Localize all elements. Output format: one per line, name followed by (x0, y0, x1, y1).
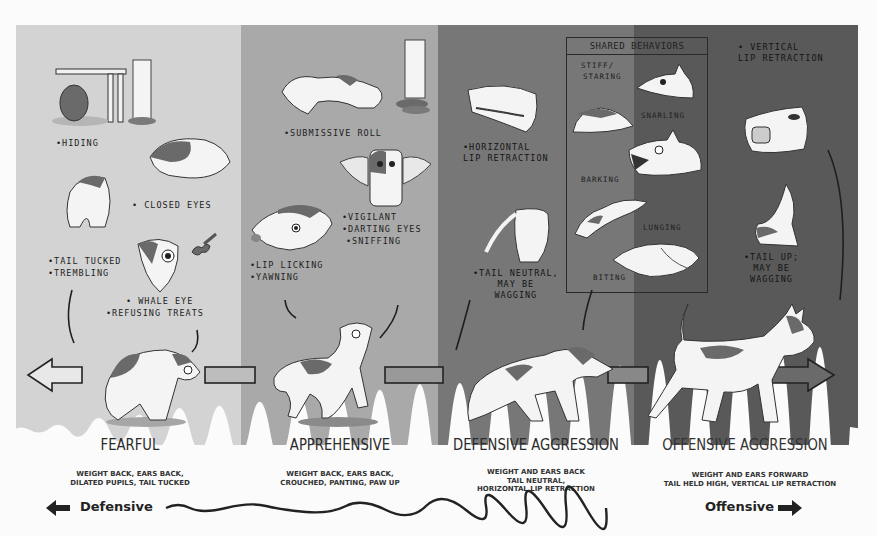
axis-label-defensive: Defensive (80, 499, 153, 514)
offensive-arrow-icon (776, 500, 802, 516)
stage-title-fearful: FEARFUL (51, 436, 209, 454)
offensive-aggression-dog (644, 300, 819, 425)
stage-desc-offensive-aggression: WEIGHT AND EARS FORWARD TAIL HELD HIGH, … (640, 471, 860, 488)
defensive-arrow-icon (46, 500, 72, 516)
stage-desc-defensive-aggression: WEIGHT AND EARS BACK TAIL NEUTRAL, HORIZ… (446, 468, 626, 494)
desc-line: WEIGHT BACK, EARS BACK, (40, 470, 220, 479)
defensive-aggression-dog (455, 325, 615, 425)
desc-line: WEIGHT AND EARS FORWARD (640, 471, 860, 480)
pointer-lines (0, 0, 877, 536)
desc-line: WEIGHT AND EARS BACK (446, 468, 626, 477)
desc-line: HORIZONTAL LIP RETRACTION (446, 485, 626, 494)
desc-line: TAIL NEUTRAL, (446, 477, 626, 486)
wavy-axis-line (166, 498, 606, 518)
fearful-dog (96, 348, 206, 428)
stage-title-apprehensive: APPREHENSIVE (252, 436, 428, 454)
stage-title-offensive-aggression: OFFENSIVE AGGRESSION (646, 436, 845, 454)
stage-desc-fearful: WEIGHT BACK, EARS BACK, DILATED PUPILS, … (40, 470, 220, 487)
desc-line: WEIGHT BACK, EARS BACK, (250, 470, 430, 479)
apprehensive-dog (268, 318, 383, 428)
stage-title-defensive-aggression: DEFENSIVE AGGRESSION (443, 436, 630, 454)
axis-label-offensive: Offensive (705, 499, 774, 514)
stage-desc-apprehensive: WEIGHT BACK, EARS BACK, CROUCHED, PANTIN… (250, 470, 430, 487)
desc-line: DILATED PUPILS, TAIL TUCKED (40, 479, 220, 488)
desc-line: CROUCHED, PANTING, PAW UP (250, 479, 430, 488)
desc-line: TAIL HELD HIGH, VERTICAL LIP RETRACTION (640, 480, 860, 489)
